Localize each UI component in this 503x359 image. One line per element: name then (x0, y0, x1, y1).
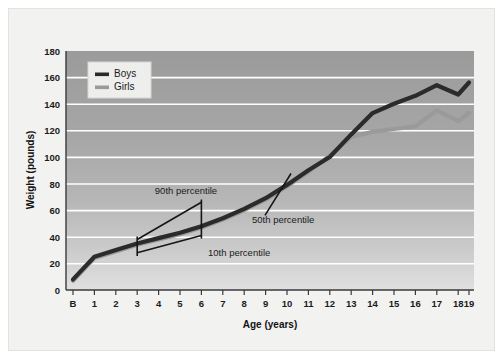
x-tick-label-13: 13 (346, 298, 357, 309)
y-tick-label-120: 120 (44, 125, 60, 136)
annotation-50th-percentile: 50th percentile (252, 214, 314, 225)
x-tick-label-17: 17 (432, 298, 443, 309)
x-tick-label-B: B (70, 298, 77, 309)
y-tick-label-40: 40 (49, 232, 60, 243)
x-tick-label-9: 9 (263, 298, 268, 309)
y-tick-label-80: 80 (49, 179, 60, 190)
x-tick-label-4: 4 (156, 298, 162, 309)
y-tick-label-0: 0 (55, 285, 60, 296)
x-tick-label-7: 7 (220, 298, 225, 309)
x-tick-label-14: 14 (367, 298, 378, 309)
x-tick-label-11: 11 (303, 298, 314, 309)
annotation-10th-percentile: 10th percentile (208, 247, 270, 258)
x-tick-label-5: 5 (177, 298, 183, 309)
x-tick-label-12: 12 (325, 298, 336, 309)
y-tick-label-140: 140 (44, 99, 60, 110)
y-tick-label-180: 180 (44, 46, 60, 57)
x-tick-label-8: 8 (242, 298, 247, 309)
legend-label-boys: Boys (114, 68, 136, 79)
growth-chart-figure: 180 160 140 120 100 80 60 40 20 0 Weight… (0, 0, 503, 359)
x-tick-label-3: 3 (135, 298, 140, 309)
y-tick-label-60: 60 (49, 205, 60, 216)
y-tick-label-100: 100 (44, 152, 60, 163)
legend-swatch-boys (95, 73, 109, 77)
legend: Boys Girls (88, 62, 151, 98)
x-axis-title: Age (years) (243, 319, 297, 330)
x-tick-label-15: 15 (389, 298, 400, 309)
legend-label-girls: Girls (114, 81, 135, 92)
x-axis: B 1 2 3 4 5 6 7 8 9 10 11 12 13 14 15 16… (66, 290, 474, 309)
x-tick-label-2: 2 (113, 298, 118, 309)
x-tick-label-18: 18 (453, 298, 464, 309)
annotation-90th-percentile: 90th percentile (155, 185, 217, 196)
x-tick-label-10: 10 (282, 298, 293, 309)
x-tick-label-1: 1 (92, 298, 98, 309)
x-tick-label-6: 6 (199, 298, 204, 309)
x-tick-label-19: 19 (464, 298, 475, 309)
legend-swatch-girls (95, 86, 109, 90)
y-tick-label-20: 20 (49, 258, 60, 269)
weight-by-age-line-chart: 180 160 140 120 100 80 60 40 20 0 Weight… (0, 0, 503, 359)
y-axis-title: Weight (pounds) (25, 131, 36, 210)
x-tick-label-16: 16 (410, 298, 421, 309)
y-axis: 180 160 140 120 100 80 60 40 20 0 (44, 46, 66, 296)
y-tick-label-160: 160 (44, 72, 60, 83)
